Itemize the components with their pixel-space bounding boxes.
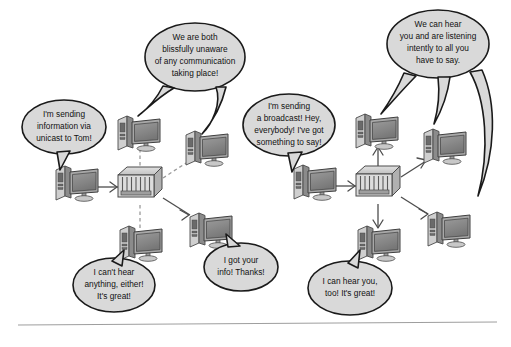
broadcast-sender-computer	[294, 165, 336, 200]
bubble-line-0: I can't hear	[94, 267, 135, 277]
bubble-line-2: everybody! I've got	[254, 125, 324, 135]
bubble-line-3: something to say!	[256, 137, 321, 147]
broadcast-bottom-computer	[358, 226, 400, 261]
bubble-line-1: too! It's great!	[325, 288, 375, 298]
bubble-line-1: you and are listening	[400, 31, 477, 41]
bubble-line-1: info! Thanks!	[217, 267, 264, 277]
bubble-line-3: taking place!	[172, 68, 219, 78]
diagram-canvas: I'm sending information via unicast to T…	[0, 0, 511, 347]
bubble-line-1: anything, either!	[84, 279, 143, 289]
link-switch-to-tom-pc	[163, 198, 190, 215]
broadcast-switch	[356, 166, 400, 196]
bubble-line-1: blissfully unaware	[162, 44, 228, 54]
broadcast-network-panel: I'm sending a broadcast! Hey, everybody!…	[243, 10, 492, 315]
bubble-line-0: I can hear you,	[323, 276, 378, 286]
bubble-tail-left	[138, 86, 174, 116]
bubble-tail-right	[202, 87, 226, 134]
bubble-line-3: have to say.	[416, 55, 460, 65]
broadcast-upper-right-computer	[424, 129, 466, 164]
bubble-broadcast-sender: I'm sending a broadcast! Hey, everybody!…	[243, 94, 335, 172]
bottom-divider	[18, 322, 497, 325]
bubble-line-0: We can hear	[415, 19, 462, 29]
bubble-tail	[226, 234, 240, 247]
unicast-sender-computer	[56, 166, 98, 201]
bubble-line-1: a broadcast! Hey,	[257, 113, 321, 123]
bubble-line-0: We are both	[172, 32, 217, 42]
broadcast-lower-right-computer	[428, 212, 470, 247]
bubble-line-1: information via	[37, 121, 91, 131]
link-switch-to-upper-right-pc	[401, 161, 426, 177]
bubble-unaware-pair: We are both blissfully unaware of any co…	[138, 23, 245, 134]
bubble-line-2: intently to all you	[407, 43, 469, 53]
link-switch-to-upper-right-pc	[163, 163, 186, 178]
unicast-network-panel: I'm sending information via unicast to T…	[22, 23, 278, 312]
bubble-line-0: I'm sending	[268, 101, 311, 111]
bubble-unicast-sender: I'm sending information via unicast to T…	[22, 100, 106, 170]
bubble-line-0: I got your	[224, 255, 259, 265]
bubble-line-2: unicast to Tom!	[36, 133, 92, 143]
unicast-upper-right-computer	[186, 131, 228, 166]
unicast-switch	[118, 167, 162, 197]
bubble-tail-right	[470, 70, 492, 196]
unicast-top-computer	[118, 116, 160, 151]
bubble-tail-left	[381, 73, 416, 114]
bubble-line-0: I'm sending	[43, 109, 86, 119]
bubble-tail-mid	[434, 77, 450, 124]
bubble-line-2: It's great!	[97, 291, 131, 301]
broadcast-top-computer	[356, 114, 398, 149]
bubble-line-2: of any communication	[155, 56, 236, 66]
unicast-bottom-computer	[120, 226, 162, 261]
unicast-tom-computer	[190, 213, 232, 248]
